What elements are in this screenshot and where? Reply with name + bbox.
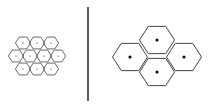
right-hex-cluster: [113, 26, 202, 85]
hexagon-diagram: [0, 0, 215, 107]
cell-center-dot: [155, 38, 158, 41]
left-hex-cluster: [8, 37, 65, 75]
cell-center-dot: [29, 55, 30, 56]
cell-center-dot: [128, 55, 131, 58]
cell-center-dot: [36, 68, 37, 69]
cell-center-dot: [50, 42, 51, 43]
cell-center-dot: [15, 55, 16, 56]
cell-center-dot: [36, 42, 37, 43]
cell-center-dot: [57, 55, 58, 56]
cell-center-dot: [50, 68, 51, 69]
cell-center-dot: [43, 55, 44, 56]
cell-center-dot: [22, 68, 23, 69]
cell-center-dot: [22, 42, 23, 43]
cell-center-dot: [155, 70, 158, 73]
cell-center-dot: [182, 55, 185, 58]
